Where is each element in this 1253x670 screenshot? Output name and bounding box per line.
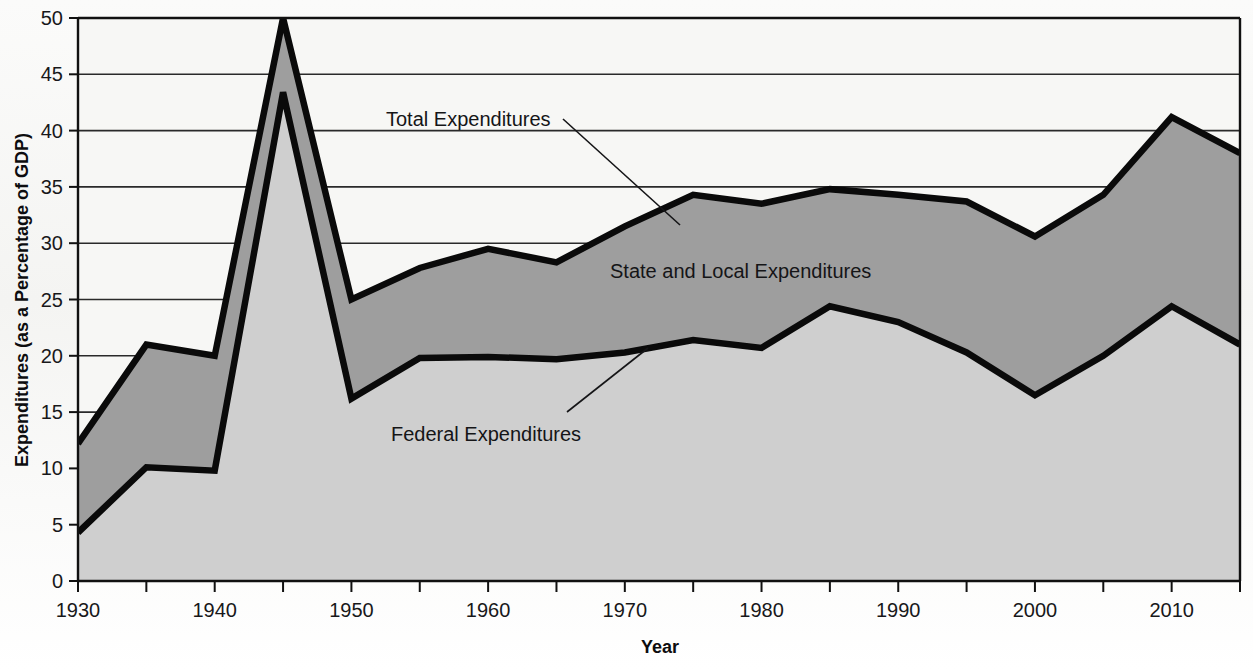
x-tick-label: 1960 [466, 599, 511, 621]
x-tick-label: 2000 [1013, 599, 1058, 621]
annotation-federal-expenditures: Federal Expenditures [391, 423, 581, 445]
y-tick-label: 25 [41, 289, 63, 311]
x-axis-title: Year [641, 637, 679, 657]
annotation-state-and-local-expenditures: State and Local Expenditures [610, 260, 871, 282]
x-tick-label: 1940 [192, 599, 237, 621]
x-tick-label: 1930 [56, 599, 101, 621]
y-tick-label: 40 [41, 120, 63, 142]
y-tick-label: 45 [41, 63, 63, 85]
y-tick-label: 10 [41, 457, 63, 479]
y-tick-label: 50 [41, 7, 63, 29]
y-tick-label: 35 [41, 176, 63, 198]
y-axis-ticks [69, 18, 78, 581]
y-tick-label: 20 [41, 345, 63, 367]
annotation-total-expenditures: Total Expenditures [386, 108, 551, 130]
expenditures-area-chart: 05101520253035404550 1930194019501960197… [0, 0, 1253, 670]
x-tick-label: 1970 [603, 599, 648, 621]
y-tick-label: 5 [52, 514, 63, 536]
y-tick-label: 0 [52, 570, 63, 592]
y-axis-title: Expenditures (as a Percentage of GDP) [12, 133, 32, 467]
chart-figure: 05101520253035404550 1930194019501960197… [0, 0, 1253, 670]
x-tick-label: 1990 [876, 599, 921, 621]
x-axis-tick-labels: 193019401950196019701980199020002010 [56, 599, 1194, 621]
y-tick-label: 15 [41, 401, 63, 423]
y-tick-label: 30 [41, 232, 63, 254]
x-tick-label: 1950 [329, 599, 374, 621]
x-tick-label: 1980 [739, 599, 784, 621]
x-axis-ticks [78, 581, 1240, 592]
x-tick-label: 2010 [1149, 599, 1194, 621]
y-axis-tick-labels: 05101520253035404550 [41, 7, 63, 592]
